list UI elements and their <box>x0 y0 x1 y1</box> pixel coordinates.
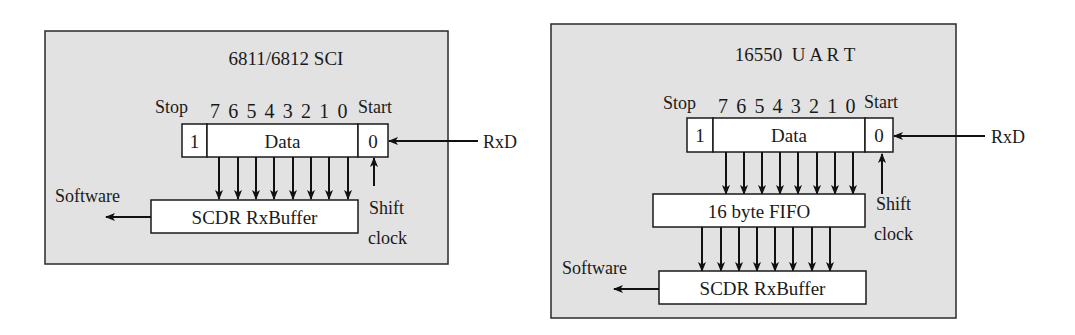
sci-diagram-panel: 6811/6812 SCI Stop 7 6 5 4 3 2 1 0 Start… <box>45 31 517 264</box>
sci-shift-register: 1 Data 0 <box>182 124 388 157</box>
uart-data-label: Data <box>771 125 807 146</box>
uart-scdr-rxbuffer-label: SCDR RxBuffer <box>700 278 826 299</box>
uart-clock-label: clock <box>874 224 913 244</box>
sci-data-label: Data <box>265 131 301 152</box>
sci-clock-label: clock <box>368 228 407 248</box>
sci-rxd-label: RxD <box>483 132 517 152</box>
sci-stop-bit-value: 1 <box>190 131 200 152</box>
uart-stop-label: Stop <box>663 93 696 113</box>
sci-shift-label: Shift <box>369 198 404 218</box>
sci-stop-label: Stop <box>155 97 188 117</box>
uart-fifo-label: 16 byte FIFO <box>708 201 810 222</box>
uart-rxd-label: RxD <box>991 127 1025 147</box>
uart-title: 16550 U A R T <box>735 44 856 65</box>
sci-software-label: Software <box>55 186 120 206</box>
uart-shift-register: 1 Data 0 <box>687 118 893 152</box>
uart-stop-bit-value: 1 <box>695 125 705 146</box>
uart-bit-labels: 7 6 5 4 3 2 1 0 <box>718 95 857 117</box>
sci-title: 6811/6812 SCI <box>229 48 344 69</box>
sci-bit-labels: 7 6 5 4 3 2 1 0 <box>210 100 349 122</box>
sci-scdr-rxbuffer-label: SCDR RxBuffer <box>192 207 318 228</box>
uart-start-label: Start <box>864 92 898 112</box>
uart-start-bit-value: 0 <box>874 125 884 146</box>
uart-diagram-panel: 16550 U A R T Stop 7 6 5 4 3 2 1 0 Start… <box>551 24 1025 318</box>
sci-start-bit-value: 0 <box>368 131 378 152</box>
uart-software-label: Software <box>562 258 627 278</box>
uart-shift-label: Shift <box>876 194 911 214</box>
uart-receive-diagrams: 6811/6812 SCI Stop 7 6 5 4 3 2 1 0 Start… <box>0 0 1075 335</box>
sci-start-label: Start <box>358 97 392 117</box>
